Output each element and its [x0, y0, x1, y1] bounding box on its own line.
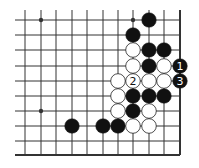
black-stone — [142, 13, 157, 28]
white-stone — [126, 59, 141, 74]
black-stone — [142, 59, 157, 74]
star-point — [39, 18, 43, 22]
black-stone — [126, 104, 141, 119]
white-stone — [111, 74, 126, 89]
white-stone — [142, 119, 157, 134]
white-stone — [126, 43, 141, 58]
move-number-label: 3 — [177, 75, 184, 88]
move-number-label: 2 — [130, 75, 137, 88]
white-stone — [142, 104, 157, 119]
black-stone — [65, 119, 80, 134]
black-stone — [96, 119, 111, 134]
black-stone — [126, 28, 141, 43]
move-number-label: 1 — [177, 60, 184, 73]
black-stone: 1 — [173, 59, 188, 74]
black-stone — [142, 43, 157, 58]
stones: 123 — [65, 13, 188, 134]
white-stone: 2 — [126, 74, 141, 89]
star-point — [131, 18, 135, 22]
go-board: 123 — [0, 0, 199, 168]
black-stone — [157, 43, 172, 58]
black-stone — [111, 119, 126, 134]
white-stone — [111, 104, 126, 119]
white-stone — [126, 119, 141, 134]
black-stone — [157, 89, 172, 104]
star-point — [39, 109, 43, 113]
white-stone — [142, 74, 157, 89]
black-stone: 3 — [173, 74, 188, 89]
white-stone — [157, 59, 172, 74]
black-stone — [126, 89, 141, 104]
white-stone — [111, 89, 126, 104]
black-stone — [142, 89, 157, 104]
white-stone — [157, 74, 172, 89]
